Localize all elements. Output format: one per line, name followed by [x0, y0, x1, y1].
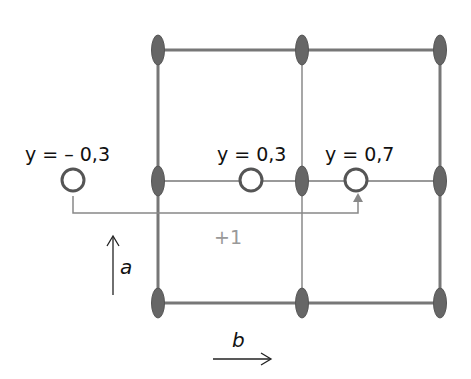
lattice-diagram [0, 0, 471, 379]
atom-circle-07 [345, 169, 367, 191]
node-ellipse [434, 288, 447, 318]
atom-circles [62, 169, 367, 191]
translation-arrow [73, 193, 363, 213]
node-ellipse [434, 35, 447, 65]
node-ellipse [296, 288, 309, 318]
node-ellipse [296, 166, 309, 196]
lattice-nodes [152, 35, 447, 318]
axis-b-label: b [232, 328, 245, 352]
axis-b-arrow [213, 353, 271, 365]
axis-a-arrow [107, 236, 119, 295]
axis-a-label: a [120, 255, 132, 279]
node-ellipse [434, 166, 447, 196]
node-ellipse [296, 35, 309, 65]
atom-circle-neg [62, 169, 84, 191]
label-y-neg: y = – 0,3 [25, 143, 110, 165]
node-ellipse [152, 166, 165, 196]
translation-label: +1 [214, 226, 242, 248]
node-ellipse [152, 35, 165, 65]
node-ellipse [152, 288, 165, 318]
label-y-07: y = 0,7 [325, 143, 394, 165]
atom-circle-03 [240, 169, 262, 191]
label-y-03: y = 0,3 [217, 143, 286, 165]
